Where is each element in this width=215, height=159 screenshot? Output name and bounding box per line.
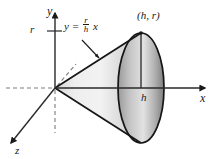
equation-denominator: h: [83, 25, 90, 33]
point-label-h-r: (h, r): [137, 10, 160, 21]
equation-label: y = r h x: [64, 18, 98, 34]
equation-callout-arrow: [82, 40, 99, 58]
z-axis-label: z: [15, 145, 19, 156]
cone-figure: y x z r h (h, r) y = r h x: [0, 0, 215, 159]
equation-equals-sign: =: [72, 21, 79, 32]
equation-lhs: y: [64, 21, 69, 32]
equation-fraction: r h: [83, 17, 90, 33]
y-axis-label: y: [47, 5, 52, 17]
x-axis-label: x: [200, 92, 205, 104]
equation-numerator: r: [83, 17, 90, 24]
point-h-r-marker: [139, 31, 143, 35]
y-axis-tick-label-r: r: [30, 24, 34, 35]
z-axis: [11, 88, 55, 143]
x-axis-tick-label-h: h: [141, 92, 147, 103]
equation-variable: x: [93, 21, 98, 32]
